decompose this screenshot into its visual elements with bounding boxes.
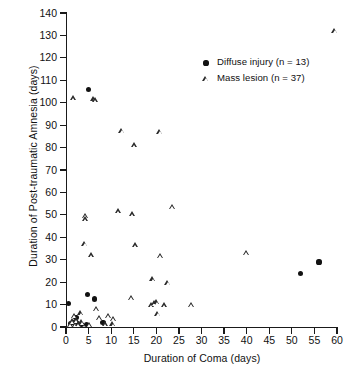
- legend-item-diffuse-injury: Diffuse injury (n = 13): [206, 56, 309, 72]
- data-point: [86, 322, 92, 327]
- data-point: [92, 97, 98, 102]
- legend: Diffuse injury (n = 13)Mass lesion (n = …: [206, 56, 309, 88]
- data-point: [93, 306, 99, 311]
- data-point: [66, 301, 71, 306]
- y-tick-label-50: 50: [9, 209, 57, 220]
- data-point: [92, 296, 97, 301]
- data-point: [157, 129, 163, 134]
- data-point: [86, 87, 91, 92]
- y-tick-label-80: 80: [9, 142, 57, 153]
- y-tick-label-60: 60: [9, 187, 57, 198]
- data-point: [155, 311, 161, 316]
- data-point: [85, 292, 90, 297]
- y-tick-label-30: 30: [9, 254, 57, 265]
- data-point: [78, 310, 84, 315]
- data-point: [332, 28, 338, 33]
- data-point: [70, 95, 76, 100]
- data-point: [88, 252, 94, 257]
- y-tick-label-140: 140: [9, 8, 57, 19]
- x-axis-title: Duration of Coma (days): [66, 352, 338, 364]
- data-point: [154, 299, 160, 304]
- y-tick-label-20: 20: [9, 277, 57, 288]
- data-point: [131, 142, 137, 147]
- data-point: [115, 208, 121, 213]
- data-point: [79, 319, 85, 324]
- data-point: [82, 241, 88, 246]
- x-tick-label-60: 60: [322, 335, 352, 346]
- legend-label: Diffuse injury (n = 13): [217, 56, 309, 67]
- data-point: [298, 271, 303, 276]
- y-tick-label-70: 70: [9, 165, 57, 176]
- data-point: [132, 242, 138, 247]
- y-tick-label-0: 0: [9, 322, 57, 333]
- data-point: [169, 204, 175, 209]
- y-tick-label-110: 110: [9, 75, 57, 86]
- data-point: [110, 321, 116, 326]
- y-tick-label-130: 130: [9, 30, 57, 41]
- data-point: [129, 211, 135, 216]
- y-tick-label-120: 120: [9, 52, 57, 63]
- y-tick-label-40: 40: [9, 232, 57, 243]
- y-tick-label-90: 90: [9, 120, 57, 131]
- data-point: [161, 302, 167, 307]
- data-point: [243, 250, 249, 255]
- y-tick-label-100: 100: [9, 97, 57, 108]
- data-point: [102, 321, 108, 326]
- y-tick-label-10: 10: [9, 299, 57, 310]
- legend-item-mass-lesion: Mass lesion (n = 37): [206, 72, 309, 88]
- filled-circle-icon: [203, 60, 208, 65]
- data-point: [110, 316, 116, 321]
- data-point: [82, 216, 88, 221]
- data-point: [150, 276, 156, 281]
- legend-label: Mass lesion (n = 37): [217, 72, 305, 83]
- data-point: [96, 315, 102, 320]
- scatter-plot-figure: Duration of Post-traumatic Amnesia (days…: [0, 0, 364, 381]
- data-point: [188, 302, 194, 307]
- data-point: [119, 128, 125, 133]
- data-point: [157, 253, 163, 258]
- data-point: [316, 259, 321, 264]
- open-triangle-icon: [203, 76, 209, 81]
- data-point: [165, 280, 171, 285]
- data-point: [128, 295, 134, 300]
